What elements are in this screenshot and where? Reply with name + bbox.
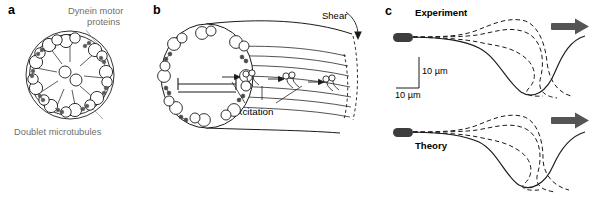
shear-arrowhead: [354, 32, 362, 40]
panel-b-drawing: [150, 0, 375, 199]
panel-c-drawing: [375, 0, 607, 199]
figure-root: a Dynein motor proteins Doublet microtub…: [0, 0, 607, 199]
waveform-solid-experiment: [413, 36, 585, 95]
panel-a-drawing: [0, 0, 150, 199]
central-pair: [59, 66, 82, 86]
panel-c: c Experiment Theory 10 µm 10 µm: [375, 0, 607, 199]
panel-a: a Dynein motor proteins Doublet microtub…: [0, 0, 150, 199]
propagation-arrow-theory: [551, 113, 589, 129]
sheared-end-dashed: [344, 36, 358, 120]
micropipette-holder-experiment: [393, 33, 413, 42]
scale-bar-experiment: [396, 57, 419, 88]
propagation-arrow-experiment: [551, 19, 589, 35]
waveform-dashed-theory: [413, 115, 569, 192]
waveform-solid-theory: [413, 132, 585, 188]
shear-arrow: [346, 12, 358, 35]
panel-b: b Inhibition Excitation Shear: [150, 0, 375, 199]
motor-clusters: [243, 70, 339, 91]
micropipette-holder-theory: [393, 128, 413, 137]
